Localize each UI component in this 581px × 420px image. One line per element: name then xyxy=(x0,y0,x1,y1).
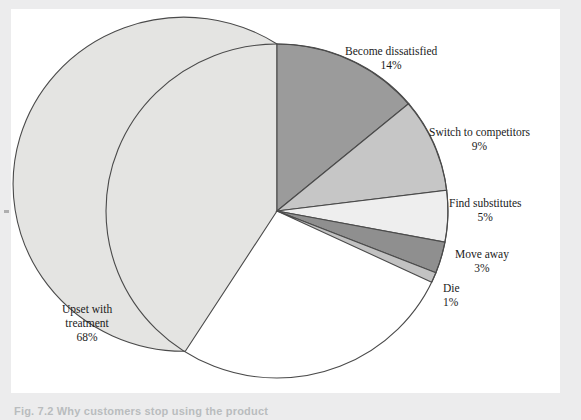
pie-label-find-substitutes: Find substitutes 5% xyxy=(449,196,522,224)
pie-label-find-substitutes-value: 5% xyxy=(449,210,522,224)
pie-slice-upset-with-treatment[interactable] xyxy=(13,17,277,351)
pie-label-move-away: Move away 3% xyxy=(455,247,509,275)
pie-label-become-dissatisfied-text: Become dissatisfied xyxy=(345,44,437,58)
pie-label-upset-with-treatment-value: 68% xyxy=(62,330,112,344)
pie-label-die-text: Die xyxy=(443,281,460,295)
figure-caption-strip: Fig. 7.2 Why customers stop using the pr… xyxy=(0,404,581,420)
pie-label-become-dissatisfied: Become dissatisfied 14% xyxy=(345,44,437,72)
pie-label-die: Die 1% xyxy=(443,281,460,309)
pie-label-upset-with-treatment-text-line2: treatment xyxy=(62,316,112,330)
pie-label-upset-with-treatment-text-line1: Upset with xyxy=(62,302,112,316)
pie-label-switch-to-competitors: Switch to competitors 9% xyxy=(429,125,530,153)
pie-label-become-dissatisfied-value: 14% xyxy=(345,58,437,72)
pie-chart: Become dissatisfied 14% Switch to compet… xyxy=(0,0,581,420)
pie-label-move-away-text: Move away xyxy=(455,247,509,261)
pie-label-switch-to-competitors-text: Switch to competitors xyxy=(429,125,530,139)
pie-label-die-value: 1% xyxy=(443,295,460,309)
pie-label-move-away-value: 3% xyxy=(455,261,509,275)
pie-label-find-substitutes-text: Find substitutes xyxy=(449,196,522,210)
figure-caption: Fig. 7.2 Why customers stop using the pr… xyxy=(14,405,268,417)
pie-label-upset-with-treatment: Upset with treatment 68% xyxy=(62,302,112,344)
scanned-page-frame: Become dissatisfied 14% Switch to compet… xyxy=(0,0,581,420)
pie-label-switch-to-competitors-value: 9% xyxy=(429,139,530,153)
